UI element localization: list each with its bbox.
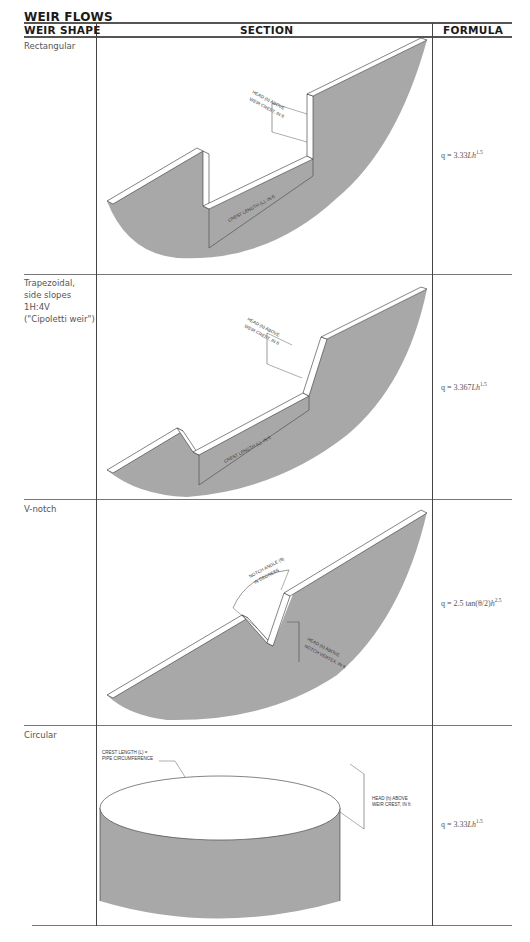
formula-v-notch: q = 2.5 tan(θ/2)h2.5 [441, 597, 502, 608]
v-notch-weir-diagram: NOTCH ANGLE (θ) IN DEGREES HEAD (h) ABOV… [97, 500, 431, 724]
shape-v-notch: V-notch [24, 503, 56, 515]
svg-text:WEIR CREST, IN ft: WEIR CREST, IN ft [372, 802, 411, 807]
circular-weir-diagram: CREST LENGTH (L) = PIPE CIRCUMFERENCE HE… [97, 726, 431, 924]
svg-text:PIPE CIRCUMFERENCE: PIPE CIRCUMFERENCE [102, 756, 153, 761]
trapezoidal-weir-diagram: HEAD (h) ABOVE WEIR CREST, IN ft CREST L… [97, 275, 431, 499]
shape-trapezoidal: Trapezoidal, side slopes 1H:4V ("Cipolet… [24, 277, 95, 325]
header-formula: FORMULA [443, 24, 503, 36]
formula-trapezoidal: q = 3.367Lh1.5 [441, 381, 487, 392]
formula-rectangular: q = 3.33Lh1.5 [441, 149, 483, 160]
shape-rectangular: Rectangular [24, 40, 75, 52]
header-weir-shape: WEIR SHAPE [24, 24, 101, 36]
shape-circular: Circular [24, 729, 57, 741]
column-divider-2 [432, 23, 433, 926]
head-label-circ: HEAD (h) ABOVE [372, 796, 408, 801]
header-section: SECTION [240, 24, 293, 36]
rectangular-weir-diagram: HEAD (h) ABOVE WEIR CREST, IN ft CREST L… [97, 38, 431, 274]
table-bottom-rule [32, 925, 512, 926]
formula-circular: q = 3.33Lh1.5 [441, 818, 483, 829]
crest-label-circ: CREST LENGTH (L) = [102, 750, 148, 755]
